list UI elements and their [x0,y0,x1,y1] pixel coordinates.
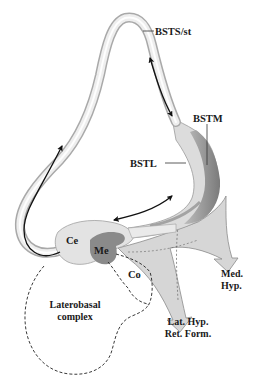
stria-terminalis [20,18,176,253]
label-med-hyp-2: Hyp. [221,280,242,291]
label-lat-hyp-1: Lat. Hyp. [168,316,209,327]
label-me: Me [94,245,109,256]
label-co: Co [128,269,141,280]
label-med-hyp-1: Med. [221,268,243,279]
label-ce: Ce [66,235,79,246]
label-laterobasal-1: Laterobasal [50,299,101,310]
label-bstm: BSTM [193,113,223,124]
label-bstl: BSTL [130,158,157,169]
label-bsts-st: BSTS/st [155,26,192,37]
label-laterobasal-2: complex [57,311,93,322]
extended-amygdala-diagram: BSTS/st BSTM BSTL Ce Me Co Laterobasal c… [0,0,256,392]
label-lat-hyp-2: Ret. Form. [165,328,212,339]
arrow-bstl-ce-bidirectional [114,196,172,220]
